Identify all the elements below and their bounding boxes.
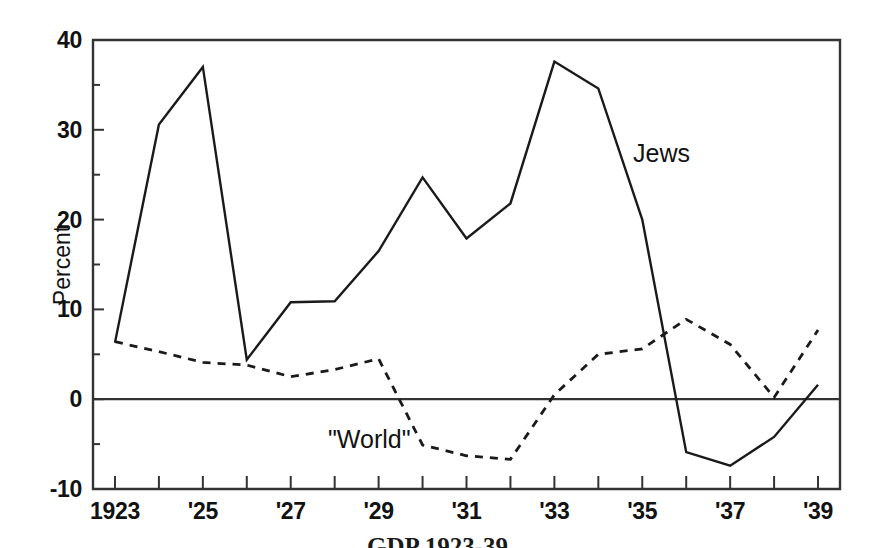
chart-series [115, 62, 818, 466]
x-tick-label-1939: '39 [803, 498, 833, 525]
y-axis-title: Percent [49, 186, 76, 346]
x-tick-label-1937: '37 [715, 498, 745, 525]
series-line-jews [115, 62, 818, 466]
x-tick-label-1935: '35 [627, 498, 657, 525]
series-annotation-world: "World" [328, 425, 411, 454]
x-tick-label-1925: '25 [188, 498, 218, 525]
chart-axes [93, 40, 840, 489]
y-tick-label-30: 30 [10, 116, 82, 143]
chart-figure: 403020100-101923'25'27'29'31'33'35'37'39… [0, 0, 875, 548]
series-annotation-jews: Jews [633, 139, 690, 168]
chart-canvas [0, 0, 875, 548]
y-tick-label-0: 0 [10, 386, 82, 413]
plot-frame [93, 40, 840, 489]
chart-ticks [93, 40, 818, 489]
y-tick-label--10: -10 [10, 476, 82, 503]
x-tick-label-1927: '27 [276, 498, 306, 525]
x-tick-label-1931: '31 [451, 498, 481, 525]
series-line-world [115, 319, 818, 459]
x-tick-label-1923: 1923 [90, 498, 140, 525]
x-tick-label-1929: '29 [364, 498, 394, 525]
x-tick-label-1933: '33 [539, 498, 569, 525]
figure-caption: GDP 1923-39 [0, 533, 875, 548]
y-tick-label-40: 40 [10, 27, 82, 54]
